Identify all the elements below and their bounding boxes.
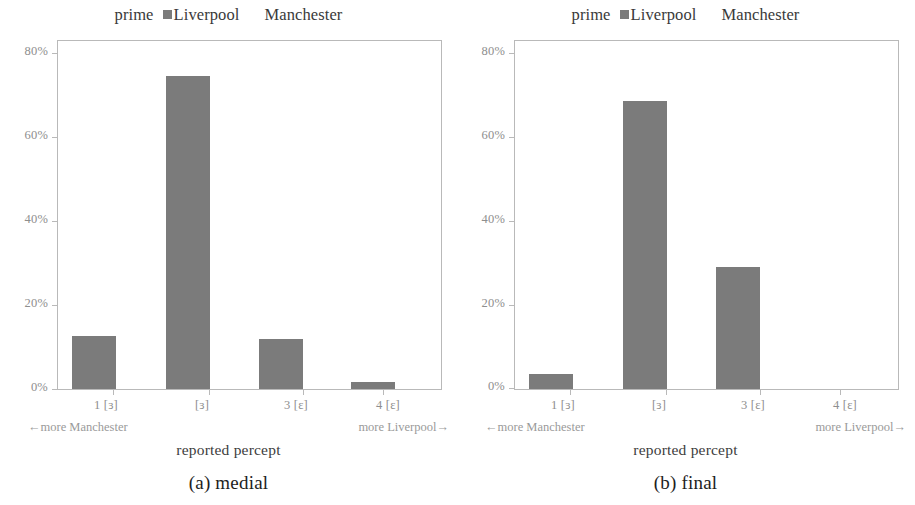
panel-final: prime Liverpool Manchester % of cases 0%… <box>457 0 914 505</box>
x-tick-mark-3-a <box>303 390 304 395</box>
x-axis-end-right-a: more Liverpool→ <box>358 420 449 435</box>
x-tick-mark-2-b <box>666 390 667 395</box>
x-tick-label-2-a: [ɜ] <box>157 398 247 413</box>
y-tick-label-60-b: 60% <box>481 128 505 143</box>
bar-a-cat4-liverpool <box>351 382 395 389</box>
y-tick-label-80-b: 80% <box>481 44 505 59</box>
legend-title-b: prime <box>572 5 611 25</box>
bars-layer-b <box>515 41 898 389</box>
y-tick-label-60-a: 60% <box>24 128 48 143</box>
x-tick-label-4-a: 4 [ɛ] <box>343 398 433 413</box>
legend-entry-manchester-b: Manchester <box>711 5 800 25</box>
x-tick-label-3-a: 3 [ɛ] <box>251 398 341 413</box>
panel-caption-b: (b) final <box>457 472 914 494</box>
legend-entry-liverpool-b: Liverpool <box>620 5 697 25</box>
y-tick-label-0-b: 0% <box>488 379 505 394</box>
x-tick-mark-4-a <box>383 390 384 395</box>
legend-label-liverpool: Liverpool <box>174 5 240 25</box>
y-tick-80-a: 80% <box>0 53 57 54</box>
bar-a-cat3-liverpool <box>259 339 303 389</box>
legend-swatch-manchester-icon <box>254 10 263 19</box>
bars-layer-a <box>58 41 441 389</box>
bar-a-cat2-liverpool <box>166 76 210 389</box>
x-tick-mark-4-b <box>840 390 841 395</box>
x-tick-mark-3-b <box>760 390 761 395</box>
x-tick-mark-1-b <box>570 390 571 395</box>
x-tick-label-4-b: 4 [ɛ] <box>800 398 890 413</box>
legend-title: prime <box>115 5 154 25</box>
x-axis-label-b: reported percept <box>457 441 914 459</box>
legend-entry-liverpool: Liverpool <box>163 5 240 25</box>
x-tick-label-3-b: 3 [ɛ] <box>708 398 798 413</box>
bar-b-cat3-liverpool <box>716 267 760 389</box>
y-tick-20-a: 20% <box>0 305 57 306</box>
y-tick-80-b: 80% <box>457 53 514 54</box>
x-tick-label-1-a: 1 [ɜ] <box>61 398 151 413</box>
x-axis-label-a: reported percept <box>0 441 457 459</box>
y-tick-0-a: 0% <box>0 389 57 390</box>
figure-two-panel-bar-charts: prime Liverpool Manchester % of cases 0%… <box>0 0 915 505</box>
y-tick-0-b: 0% <box>457 388 514 389</box>
y-tick-60-b: 60% <box>457 137 514 138</box>
panel-caption-a: (a) medial <box>0 472 457 494</box>
y-tick-40-a: 40% <box>0 221 57 222</box>
legend-label-liverpool-b: Liverpool <box>631 5 697 25</box>
y-tick-label-20-b: 20% <box>481 296 505 311</box>
y-tick-60-a: 60% <box>0 137 57 138</box>
x-axis-end-left-a: ←more Manchester <box>28 420 128 435</box>
x-tick-label-1-b: 1 [ɜ] <box>518 398 608 413</box>
legend-label-manchester: Manchester <box>265 5 343 25</box>
legend-label-manchester-b: Manchester <box>722 5 800 25</box>
legend-swatch-liverpool-icon <box>163 10 172 19</box>
legend-swatch-liverpool-icon-b <box>620 10 629 19</box>
x-axis-end-left-b: ←more Manchester <box>485 420 585 435</box>
legend-swatch-manchester-icon-b <box>711 10 720 19</box>
x-tick-label-2-b: [ɜ] <box>614 398 704 413</box>
bar-a-cat1-liverpool <box>72 336 116 389</box>
plot-area-b <box>514 40 899 390</box>
y-tick-label-20-a: 20% <box>24 296 48 311</box>
y-tick-label-80-a: 80% <box>24 44 48 59</box>
panel-medial: prime Liverpool Manchester % of cases 0%… <box>0 0 457 505</box>
y-tick-40-b: 40% <box>457 221 514 222</box>
y-tick-label-40-a: 40% <box>24 212 48 227</box>
x-tick-mark-1-a <box>113 390 114 395</box>
bar-b-cat1-liverpool <box>529 374 573 389</box>
x-axis-end-right-b: more Liverpool→ <box>815 420 906 435</box>
bar-b-cat2-liverpool <box>623 101 667 389</box>
y-tick-20-b: 20% <box>457 305 514 306</box>
legend-panel-b: prime Liverpool Manchester <box>457 2 914 28</box>
legend-panel-a: prime Liverpool Manchester <box>0 2 457 28</box>
x-tick-mark-2-a <box>209 390 210 395</box>
legend-entry-manchester: Manchester <box>254 5 343 25</box>
plot-area-a <box>57 40 442 390</box>
y-tick-label-0-a: 0% <box>31 380 48 395</box>
y-tick-label-40-b: 40% <box>481 212 505 227</box>
